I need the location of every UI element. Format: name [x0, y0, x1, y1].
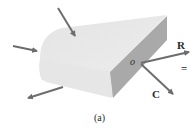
resultant-r-label: R — [177, 40, 185, 51]
figure-caption: (a) — [94, 113, 105, 123]
equals-sign: = — [181, 63, 187, 74]
point-o-label: o — [130, 57, 135, 67]
force-bottom-left-arrow — [28, 87, 63, 98]
rigid-body-diagram — [0, 0, 193, 129]
couple-c-label: C — [152, 89, 160, 100]
force-left-arrow — [13, 46, 37, 51]
